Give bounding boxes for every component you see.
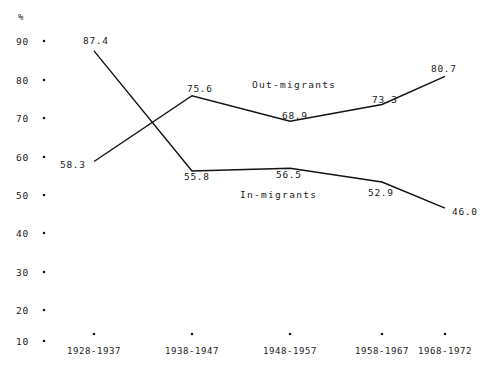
point-label-in-1: 55.8 <box>184 171 210 182</box>
series-annotation-out-migrants: Out-migrants <box>252 79 336 90</box>
y-axis-ticks: 90 80 70 60 50 40 30 20 10 <box>16 36 45 347</box>
series-line-in-migrants <box>94 51 445 208</box>
point-label-in-4: 46.0 <box>452 206 478 217</box>
x-tick-label-1: 1938-1947 <box>165 346 219 356</box>
y-tick-label-50: 50 <box>16 190 29 201</box>
y-tick-dot-30 <box>43 271 46 274</box>
y-tick-dot-60 <box>43 156 46 159</box>
y-tick-label-10: 10 <box>16 336 29 347</box>
y-tick-dot-80 <box>43 79 46 82</box>
point-label-in-3: 52.9 <box>368 187 394 198</box>
x-tick-dot-4 <box>444 333 447 336</box>
x-tick-label-4: 1968-1972 <box>418 346 472 356</box>
y-tick-label-90: 90 <box>16 36 29 47</box>
x-tick-dot-3 <box>381 333 384 336</box>
point-label-out-0: 58.3 <box>60 159 86 170</box>
x-axis-labels: 1928-1937 1938-1947 1948-1957 1958-1967 … <box>67 346 472 356</box>
y-tick-dot-50 <box>43 194 46 197</box>
x-tick-label-2: 1948-1957 <box>263 346 317 356</box>
point-label-out-3: 73.3 <box>372 94 398 105</box>
y-tick-label-80: 80 <box>16 75 29 86</box>
y-tick-label-30: 30 <box>16 267 29 278</box>
point-label-out-1: 75.6 <box>187 83 213 94</box>
x-tick-dot-0 <box>93 333 96 336</box>
y-tick-label-60: 60 <box>16 152 29 163</box>
y-tick-label-20: 20 <box>16 305 29 316</box>
point-label-in-0: 87.4 <box>83 35 109 46</box>
chart-canvas: % 90 80 70 60 50 40 30 20 10 <box>0 0 501 370</box>
point-label-out-4: 80.7 <box>431 63 457 74</box>
line-chart-figure: % 90 80 70 60 50 40 30 20 10 <box>0 0 501 370</box>
y-tick-dot-70 <box>43 117 46 120</box>
x-tick-dot-2 <box>289 333 292 336</box>
y-tick-dot-10 <box>43 340 46 343</box>
y-tick-dot-90 <box>43 40 46 43</box>
x-axis-ticks <box>93 333 447 336</box>
y-tick-dot-40 <box>43 232 46 235</box>
point-label-out-2: 68.9 <box>282 110 308 121</box>
y-axis-unit-label: % <box>18 12 24 22</box>
x-tick-label-3: 1958-1967 <box>355 346 409 356</box>
series-annotation-in-migrants: In-migrants <box>240 189 317 200</box>
y-tick-label-70: 70 <box>16 113 29 124</box>
point-label-in-2: 56.5 <box>276 169 302 180</box>
y-tick-label-40: 40 <box>16 228 29 239</box>
x-tick-label-0: 1928-1937 <box>67 346 121 356</box>
x-tick-dot-1 <box>191 333 194 336</box>
y-tick-dot-20 <box>43 309 46 312</box>
